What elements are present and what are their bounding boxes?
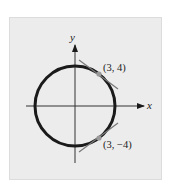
point-upper-label: (3, 4)	[103, 62, 126, 74]
x-axis-label: x	[146, 99, 152, 111]
point-lower	[96, 135, 101, 140]
circle-tangent-diagram: y x (3, 4) (3, −4)	[0, 0, 174, 188]
point-lower-label: (3, −4)	[103, 139, 132, 151]
y-axis-label: y	[69, 31, 75, 43]
point-upper	[96, 71, 101, 76]
